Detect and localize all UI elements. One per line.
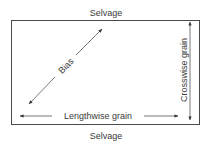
crosswise-grain-label: Crosswise grain	[179, 38, 189, 102]
lengthwise-grain-label: Lengthwise grain	[64, 111, 132, 121]
fabric-rectangle	[12, 21, 200, 125]
bias-arrow-lower	[29, 77, 55, 104]
selvage-top-label: Selvage	[90, 8, 123, 18]
selvage-bottom-label: Selvage	[90, 131, 123, 141]
bias-label: Bias	[56, 56, 76, 76]
fabric-grain-diagram: Selvage Selvage Bias Lengthwise grain Cr…	[0, 0, 209, 149]
bias-arrow-upper	[76, 29, 102, 55]
